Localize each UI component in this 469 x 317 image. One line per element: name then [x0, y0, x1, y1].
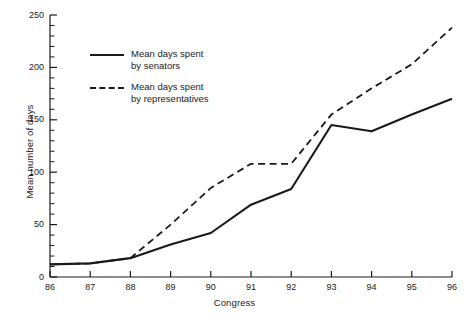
legend-item-representatives: Mean days spent by representatives	[90, 81, 209, 104]
legend-label-representatives-line2: by representatives	[131, 93, 209, 105]
x-axis-tick-label: 87	[75, 283, 105, 292]
x-axis-tick-label: 88	[115, 283, 145, 292]
x-axis-tick-label: 91	[236, 283, 266, 292]
x-axis-tick-label: 92	[276, 283, 306, 292]
x-axis-tick-label: 95	[397, 283, 427, 292]
legend-label-senators-line1: Mean days spent	[131, 48, 203, 59]
x-axis-tick-label: 96	[437, 283, 467, 292]
legend-swatch-solid-line-icon	[90, 49, 124, 61]
x-axis-tick-label: 94	[357, 283, 387, 292]
line-chart-figure: 050100150200250 8687888990919293949596 M…	[0, 0, 469, 317]
x-axis-tick-labels: 8687888990919293949596	[0, 0, 469, 317]
y-axis-title: Mean number of days	[24, 67, 35, 237]
x-axis-tick-label: 90	[196, 283, 226, 292]
x-axis-tick-label: 93	[316, 283, 346, 292]
legend-swatch-dashed-line-icon	[90, 82, 124, 94]
legend-item-senators: Mean days spent by senators	[90, 48, 209, 71]
legend-label-representatives: Mean days spent by representatives	[131, 81, 209, 104]
chart-legend: Mean days spent by senators Mean days sp…	[90, 48, 209, 114]
legend-label-representatives-line1: Mean days spent	[131, 81, 203, 92]
x-axis-tick-label: 86	[35, 283, 65, 292]
legend-label-senators-line2: by senators	[131, 60, 203, 72]
x-axis-tick-label: 89	[156, 283, 186, 292]
x-axis-title: Congress	[0, 297, 469, 308]
legend-label-senators: Mean days spent by senators	[131, 48, 203, 71]
